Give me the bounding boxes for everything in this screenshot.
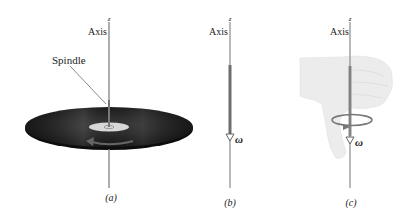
omega-vector-head-icon bbox=[346, 137, 354, 144]
z-axis-symbol: z bbox=[228, 15, 232, 23]
z-axis-symbol: z bbox=[107, 15, 111, 23]
omega-vector-shaft bbox=[229, 65, 232, 135]
rotation-figure: z Axis Spindle (a) z Axis ω (b) z Axis bbox=[0, 0, 415, 217]
panel-a: z Axis Spindle (a) bbox=[25, 15, 193, 204]
axis-label: Axis bbox=[209, 26, 228, 37]
spindle-leader-line bbox=[70, 66, 106, 104]
omega-label: ω bbox=[235, 133, 243, 145]
right-hand-icon bbox=[300, 56, 393, 158]
caption-b: (b) bbox=[224, 197, 236, 209]
caption-c: (c) bbox=[345, 197, 357, 209]
z-axis-symbol: z bbox=[348, 15, 352, 23]
omega-vector-head-icon bbox=[226, 134, 234, 141]
panel-b: z Axis ω (b) bbox=[209, 15, 243, 209]
spindle-label: Spindle bbox=[52, 54, 86, 66]
panel-c: z Axis ω (c) bbox=[300, 15, 393, 209]
axis-label: Axis bbox=[88, 26, 107, 37]
axis-label: Axis bbox=[330, 26, 349, 37]
caption-a: (a) bbox=[105, 192, 117, 204]
omega-label: ω bbox=[355, 136, 363, 148]
